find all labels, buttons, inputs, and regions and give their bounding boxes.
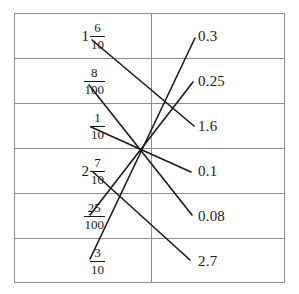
fraction-cell-3[interactable]: 1 10	[15, 104, 151, 149]
denominator-4: 10	[90, 172, 105, 187]
fraction-cell-1[interactable]: 1 6 10	[15, 14, 151, 59]
decimal-value-3: 1.6	[198, 119, 217, 134]
mixed-number-6: 3 10	[90, 246, 105, 277]
table-row: 3 10 2.7	[15, 239, 284, 284]
decimal-cell-6[interactable]: 2.7	[152, 239, 286, 284]
fraction-4: 7 10	[90, 156, 105, 187]
fraction-1: 6 10	[90, 21, 105, 52]
denominator-6: 10	[90, 262, 105, 277]
decimal-cell-1[interactable]: 0.3	[152, 14, 286, 59]
mixed-number-5: 25 100	[84, 201, 106, 232]
whole-part-1: 1	[82, 29, 90, 44]
numerator-1: 6	[93, 21, 102, 36]
fraction-cell-4[interactable]: 2 7 10	[15, 149, 151, 194]
fraction-2: 8 100	[84, 66, 106, 97]
decimal-cell-3[interactable]: 1.6	[152, 104, 286, 149]
decimal-cell-2[interactable]: 0.25	[152, 59, 286, 104]
decimal-value-6: 2.7	[198, 254, 217, 269]
denominator-5: 100	[84, 217, 106, 232]
decimal-value-4: 0.1	[198, 164, 217, 179]
table-row: 2 7 10 0.1	[15, 149, 284, 194]
numerator-3: 1	[93, 111, 102, 126]
decimal-value-1: 0.3	[198, 29, 217, 44]
matching-table: 1 6 10 0.3 8 100	[14, 13, 285, 283]
mixed-number-1: 1 6 10	[82, 21, 106, 52]
denominator-1: 10	[90, 37, 105, 52]
decimal-cell-5[interactable]: 0.08	[152, 194, 286, 239]
fraction-cell-5[interactable]: 25 100	[15, 194, 151, 239]
fraction-cell-2[interactable]: 8 100	[15, 59, 151, 104]
numerator-6: 3	[93, 246, 102, 261]
mixed-number-3: 1 10	[90, 111, 105, 142]
table-row: 1 6 10 0.3	[15, 14, 284, 59]
table-row: 25 100 0.08	[15, 194, 284, 239]
matching-worksheet: 1 6 10 0.3 8 100	[0, 0, 299, 294]
table-row: 8 100 0.25	[15, 59, 284, 104]
fraction-5: 25 100	[84, 201, 106, 232]
denominator-2: 100	[84, 82, 106, 97]
fraction-6: 3 10	[90, 246, 105, 277]
mixed-number-4: 2 7 10	[82, 156, 106, 187]
fraction-cell-6[interactable]: 3 10	[15, 239, 151, 284]
decimal-value-5: 0.08	[198, 209, 225, 224]
whole-part-4: 2	[82, 164, 90, 179]
fraction-3: 1 10	[90, 111, 105, 142]
numerator-4: 7	[93, 156, 102, 171]
numerator-2: 8	[90, 66, 99, 81]
numerator-5: 25	[87, 201, 102, 216]
mixed-number-2: 8 100	[84, 66, 106, 97]
table-row: 1 10 1.6	[15, 104, 284, 149]
decimal-value-2: 0.25	[198, 74, 225, 89]
denominator-3: 10	[90, 127, 105, 142]
decimal-cell-4[interactable]: 0.1	[152, 149, 286, 194]
